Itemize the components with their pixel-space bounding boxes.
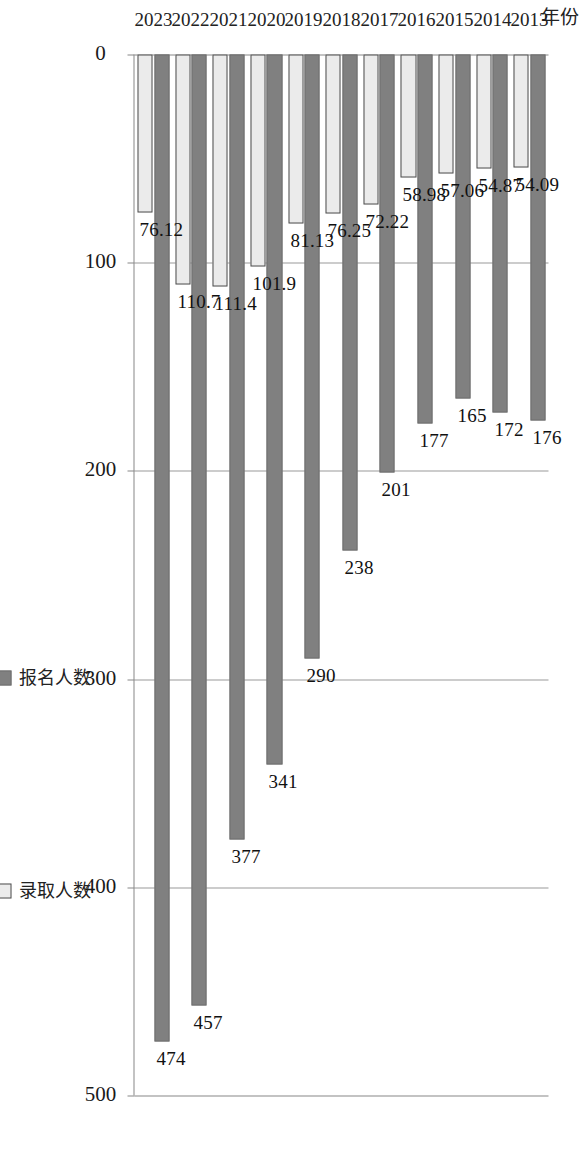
value-axis-tick-label: 100 xyxy=(70,250,130,274)
data-label-apply-2023: 474 xyxy=(156,1048,185,1067)
data-label-apply-2014: 172 xyxy=(494,419,523,438)
chart-rotated-canvas: 0100200300400500 20132014201520162017201… xyxy=(0,0,583,1150)
data-label-admit-2014: 54.87 xyxy=(478,175,522,194)
data-label-apply-2015: 165 xyxy=(457,405,486,424)
bar-apply-2023 xyxy=(154,54,169,1041)
data-label-apply-2019: 290 xyxy=(306,665,335,684)
legend-swatch-apply xyxy=(0,670,11,685)
legend-label-apply: 报名人数 xyxy=(18,668,90,686)
bar-admit-2018 xyxy=(325,54,340,213)
chart-figure: 0100200300400500 20132014201520162017201… xyxy=(0,0,583,1150)
bar-admit-2016 xyxy=(400,54,415,177)
bar-apply-2017 xyxy=(379,54,394,472)
data-label-admit-2017: 72.22 xyxy=(365,211,409,230)
data-label-apply-2013: 176 xyxy=(532,427,561,446)
bar-admit-2019 xyxy=(288,54,303,223)
data-label-admit-2019: 81.13 xyxy=(290,230,334,249)
bar-apply-2015 xyxy=(455,54,470,398)
bar-apply-2019 xyxy=(304,54,319,658)
bar-apply-2018 xyxy=(342,54,357,550)
bar-admit-2015 xyxy=(438,54,453,173)
legend-swatch-admit xyxy=(0,883,11,898)
bar-admit-2021 xyxy=(212,54,227,286)
chart-inner: 0100200300400500 20132014201520162017201… xyxy=(0,0,583,1150)
category-tick-label-2023: 2023 xyxy=(127,9,179,31)
bar-apply-2021 xyxy=(229,54,244,839)
bar-admit-2020 xyxy=(250,54,265,266)
data-label-apply-2016: 177 xyxy=(419,430,448,449)
legend-entry-admit: 录取人数 xyxy=(0,880,106,900)
value-axis-tick-label: 200 xyxy=(70,458,130,482)
data-label-apply-2022: 457 xyxy=(193,1012,222,1031)
data-label-admit-2021: 111.4 xyxy=(214,293,256,312)
data-label-apply-2020: 341 xyxy=(268,771,297,790)
data-label-admit-2015: 57.06 xyxy=(440,180,484,199)
data-label-apply-2021: 377 xyxy=(231,846,260,865)
bar-apply-2013 xyxy=(530,54,545,420)
data-label-apply-2018: 238 xyxy=(344,557,373,576)
bar-apply-2020 xyxy=(267,54,282,764)
data-label-admit-2023: 76.12 xyxy=(139,219,183,238)
value-axis-tick-label: 0 xyxy=(70,42,130,66)
value-axis-line xyxy=(133,54,134,1095)
category-axis-title: 年份 xyxy=(540,7,583,33)
bar-admit-2017 xyxy=(363,54,378,204)
data-label-admit-2016: 58.98 xyxy=(402,184,446,203)
plot-area xyxy=(134,54,548,1095)
legend-label-admit: 录取人数 xyxy=(18,881,90,899)
bar-admit-2023 xyxy=(137,54,152,212)
legend-entry-apply: 报名人数 xyxy=(0,667,106,687)
data-label-admit-2020: 101.9 xyxy=(252,273,296,292)
data-label-apply-2017: 201 xyxy=(381,479,410,498)
bar-apply-2016 xyxy=(417,54,432,423)
gridline xyxy=(134,1095,548,1096)
bar-admit-2022 xyxy=(175,54,190,284)
data-label-admit-2022: 110.7 xyxy=(177,291,220,310)
bar-admit-2014 xyxy=(476,54,491,168)
bar-apply-2022 xyxy=(191,54,206,1005)
bar-apply-2014 xyxy=(492,54,507,412)
bar-admit-2013 xyxy=(513,54,528,167)
value-axis-tick-label: 500 xyxy=(70,1083,130,1107)
